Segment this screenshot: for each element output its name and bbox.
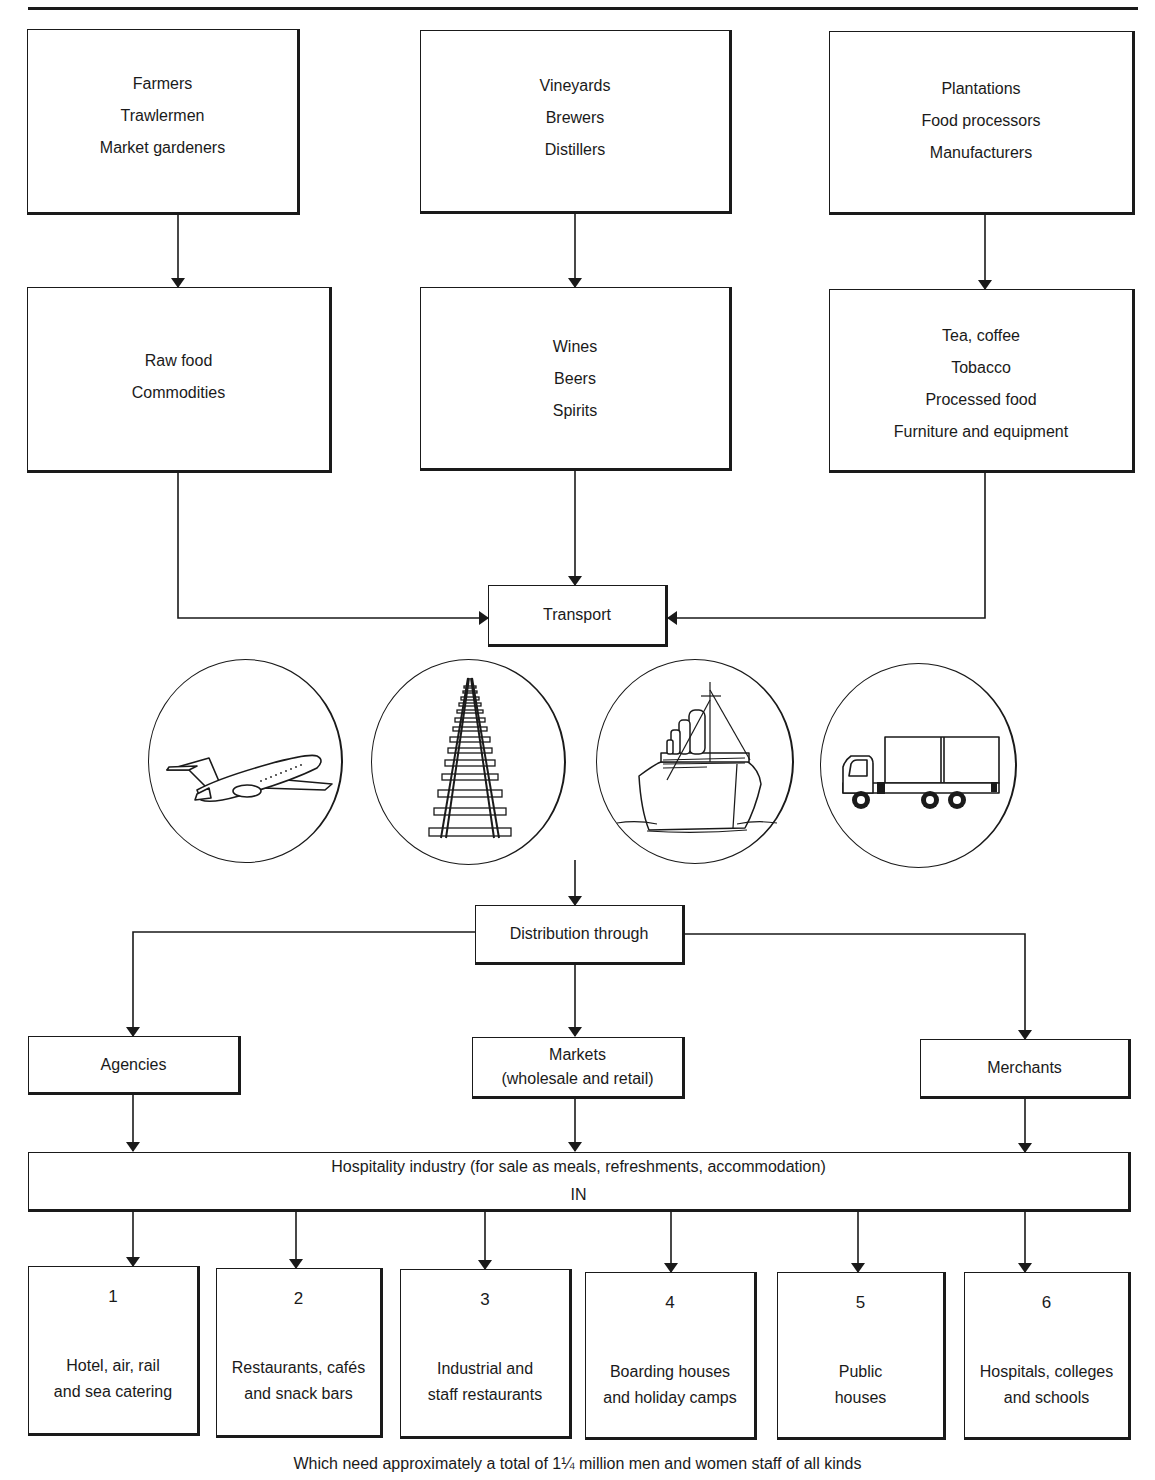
channel-box-merchants: Merchants [920, 1039, 1131, 1099]
sector-box-1: 1 Hotel, air, rail and sea catering [28, 1266, 200, 1436]
product-2-line-1: Wines [553, 331, 597, 363]
sector-4-line-1: Boarding houses [603, 1359, 736, 1385]
sector-1-number: 1 [108, 1281, 117, 1313]
sector-3-line-1: Industrial and [428, 1356, 542, 1382]
sector-box-3: 3 Industrial and staff restaurants [400, 1269, 572, 1439]
sector-6-number: 6 [1042, 1287, 1051, 1319]
sector-5-line-1: Public [835, 1359, 887, 1385]
top-rule [28, 7, 1138, 10]
transport-box: Transport [488, 585, 668, 647]
source-1-line-3: Market gardeners [100, 132, 225, 164]
source-3-line-2: Food processors [921, 105, 1040, 137]
sector-2-number: 2 [294, 1283, 303, 1315]
sector-box-2: 2 Restaurants, cafés and snack bars [216, 1268, 383, 1438]
product-2-line-3: Spirits [553, 395, 597, 427]
source-1-line-2: Trawlermen [121, 100, 205, 132]
distribution-label: Distribution through [510, 918, 649, 950]
product-1-line-2: Commodities [132, 377, 225, 409]
distribution-box: Distribution through [475, 905, 685, 965]
channel-box-markets: Markets (wholesale and retail) [472, 1037, 685, 1099]
sector-6-line-2: and schools [980, 1385, 1113, 1411]
source-3-line-1: Plantations [941, 73, 1020, 105]
source-2-line-1: Vineyards [540, 70, 611, 102]
transport-label: Transport [543, 599, 611, 631]
airplane-icon [148, 659, 343, 863]
source-1-line-1: Farmers [133, 68, 193, 100]
source-3-line-3: Manufacturers [930, 137, 1032, 169]
sector-4-number: 4 [665, 1287, 674, 1319]
channel-merchants-label: Merchants [987, 1052, 1062, 1084]
sector-3-line-2: staff restaurants [428, 1382, 542, 1408]
product-box-raw-food: Raw food Commodities [27, 287, 332, 473]
sector-5-line-2: houses [835, 1385, 887, 1411]
sector-2-line-2: and snack bars [232, 1381, 365, 1407]
sector-box-4: 4 Boarding houses and holiday camps [585, 1272, 757, 1440]
product-3-line-1: Tea, coffee [942, 320, 1020, 352]
sector-1-line-1: Hotel, air, rail [54, 1353, 172, 1379]
product-3-line-2: Tobacco [951, 352, 1011, 384]
source-box-farmers: Farmers Trawlermen Market gardeners [27, 29, 300, 215]
product-box-processed: Tea, coffee Tobacco Processed food Furni… [829, 289, 1135, 473]
product-1-line-1: Raw food [145, 345, 213, 377]
sector-6-line-1: Hospitals, colleges [980, 1359, 1113, 1385]
sector-5-number: 5 [856, 1287, 865, 1319]
ship-icon [596, 659, 794, 864]
railway-track-icon [371, 659, 566, 865]
lorry-icon [820, 663, 1017, 868]
source-box-plantations: Plantations Food processors Manufacturer… [829, 31, 1135, 215]
footer-caption: Which need approximately a total of 1¼ m… [0, 1455, 1155, 1473]
hospitality-line-1: Hospitality industry (for sale as meals,… [331, 1153, 825, 1181]
sector-1-line-2: and sea catering [54, 1379, 172, 1405]
hospitality-line-2: IN [571, 1181, 587, 1209]
sector-3-number: 3 [480, 1284, 489, 1316]
product-3-line-3: Processed food [925, 384, 1036, 416]
channel-agencies-label: Agencies [101, 1049, 167, 1081]
hospitality-industry-box: Hospitality industry (for sale as meals,… [28, 1152, 1131, 1212]
sector-box-5: 5 Public houses [777, 1272, 946, 1440]
product-2-line-2: Beers [554, 363, 596, 395]
source-2-line-3: Distillers [545, 134, 605, 166]
channel-box-agencies: Agencies [28, 1036, 241, 1095]
sector-2-line-1: Restaurants, cafés [232, 1355, 365, 1381]
sector-box-6: 6 Hospitals, colleges and schools [964, 1272, 1131, 1440]
source-box-vineyards: Vineyards Brewers Distillers [420, 30, 732, 214]
channel-markets-line-2: (wholesale and retail) [501, 1067, 653, 1091]
product-3-line-4: Furniture and equipment [894, 416, 1068, 448]
source-2-line-2: Brewers [546, 102, 605, 134]
sector-4-line-2: and holiday camps [603, 1385, 736, 1411]
channel-markets-line-1: Markets [549, 1043, 606, 1067]
product-box-drinks: Wines Beers Spirits [420, 287, 732, 471]
